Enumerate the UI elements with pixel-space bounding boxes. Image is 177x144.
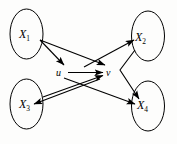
edge-v-to-x3 [34, 79, 100, 104]
edge-x3-to-v [43, 76, 103, 98]
graph-diagram: X1 X2 X3 X4 u v [0, 0, 177, 144]
edge-v-to-x2 [84, 40, 134, 67]
edge-x1-to-u [40, 40, 64, 65]
node-label-x1: X1 [19, 28, 30, 43]
edge-x2-to-x4 [120, 50, 139, 99]
edge-u-to-x4 [64, 78, 135, 104]
node-label-v: v [106, 68, 110, 78]
node-label-u: u [56, 68, 61, 78]
node-label-x4: X4 [137, 99, 148, 114]
node-label-x3: X3 [19, 98, 30, 113]
node-label-x2: X2 [135, 31, 146, 46]
diagram-canvas [0, 0, 177, 144]
